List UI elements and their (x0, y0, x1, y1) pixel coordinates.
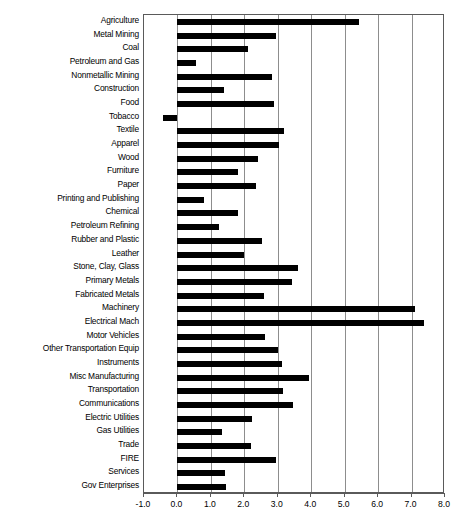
category-label: Printing and Publishing (0, 194, 139, 203)
bar (177, 457, 275, 463)
category-label: Petroleum Refining (0, 221, 139, 230)
bar (177, 33, 275, 39)
bar (177, 361, 281, 367)
category-axis: AgricultureMetal MiningCoalPetroleum and… (0, 14, 139, 493)
bar (177, 156, 258, 162)
tick-label: 8.0 (424, 499, 464, 509)
bar-chart: AgricultureMetal MiningCoalPetroleum and… (0, 0, 466, 525)
bar (177, 347, 277, 353)
tick-mark (411, 493, 412, 497)
category-label: Petroleum and Gas (0, 57, 139, 66)
tick-mark (243, 493, 244, 497)
category-label: Machinery (0, 303, 139, 312)
category-label: Electrical Mach (0, 317, 139, 326)
category-label: Chemical (0, 207, 139, 216)
bar (177, 169, 237, 175)
bar (177, 87, 223, 93)
category-label: Motor Vehicles (0, 331, 139, 340)
category-label: Trade (0, 440, 139, 449)
category-label: Services (0, 467, 139, 476)
category-label: Stone, Clay, Glass (0, 262, 139, 271)
tick-mark (377, 493, 378, 497)
category-label: Leather (0, 249, 139, 258)
bar (177, 128, 284, 134)
bar (177, 46, 247, 52)
bar (177, 142, 279, 148)
axis-line (143, 493, 445, 494)
bar (163, 115, 177, 121)
bar (177, 265, 297, 271)
bar (177, 320, 423, 326)
bar (177, 101, 274, 107)
tick-mark (310, 493, 311, 497)
bar (177, 197, 204, 203)
plot-area (143, 14, 444, 493)
bar (177, 470, 224, 476)
category-label: Construction (0, 84, 139, 93)
bar (177, 279, 292, 285)
category-label: Nonmetallic Mining (0, 71, 139, 80)
category-label: Transportation (0, 385, 139, 394)
bar (177, 443, 251, 449)
bar (177, 334, 265, 340)
category-label: Coal (0, 43, 139, 52)
tick-mark (210, 493, 211, 497)
tick-mark (176, 493, 177, 497)
bar (177, 252, 244, 258)
bar (177, 484, 225, 490)
category-label: FIRE (0, 454, 139, 463)
bar (177, 402, 292, 408)
category-label: Rubber and Plastic (0, 235, 139, 244)
category-label: Communications (0, 399, 139, 408)
category-label: Gov Enterprises (0, 481, 139, 490)
bar (177, 238, 262, 244)
tick-mark (444, 493, 445, 497)
bar (177, 306, 414, 312)
bar (177, 429, 221, 435)
category-label: Metal Mining (0, 30, 139, 39)
tick-mark (143, 493, 144, 497)
category-label: Wood (0, 153, 139, 162)
bar (177, 210, 237, 216)
category-label: Paper (0, 180, 139, 189)
category-label: Textile (0, 125, 139, 134)
category-label: Instruments (0, 358, 139, 367)
bars-layer (144, 15, 443, 492)
bar (177, 388, 282, 394)
bar (177, 19, 359, 25)
category-label: Apparel (0, 139, 139, 148)
bar (177, 60, 196, 66)
bar (177, 416, 251, 422)
category-label: Food (0, 98, 139, 107)
bar (177, 375, 308, 381)
category-label: Agriculture (0, 16, 139, 25)
category-label: Electric Utilities (0, 413, 139, 422)
category-label: Gas Utilities (0, 426, 139, 435)
value-axis: -1.00.01.02.03.04.05.06.07.08.0 (143, 493, 444, 525)
bar (177, 74, 272, 80)
bar (177, 183, 256, 189)
bar (177, 224, 218, 230)
bar (177, 293, 264, 299)
category-label: Primary Metals (0, 276, 139, 285)
tick-mark (344, 493, 345, 497)
category-label: Other Transportation Equip (0, 344, 139, 353)
category-label: Furniture (0, 166, 139, 175)
category-label: Tobacco (0, 112, 139, 121)
category-label: Fabricated Metals (0, 290, 139, 299)
category-label: Misc Manufacturing (0, 372, 139, 381)
tick-mark (277, 493, 278, 497)
